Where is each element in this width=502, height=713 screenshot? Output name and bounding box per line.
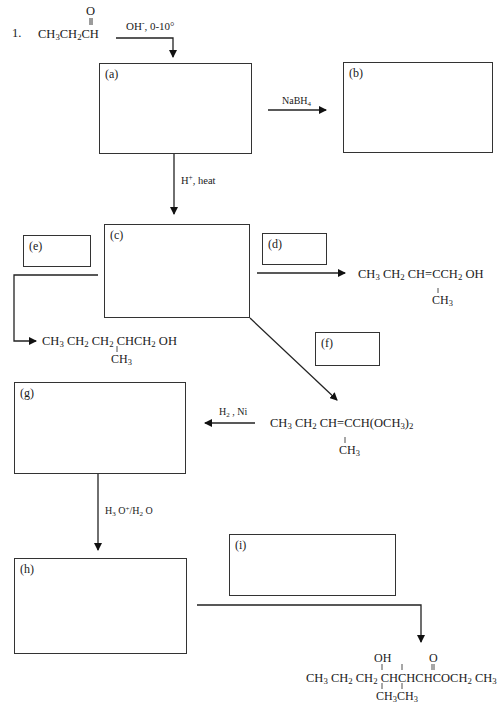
answer-box-i[interactable]: (i) (229, 534, 396, 596)
product-unsaturated-alcohol-methyl: CH3 (432, 294, 453, 306)
reagent-acid-heat: H+, heat (181, 175, 216, 186)
final-ester: CH3 CH2 CH2 CHCHCHCOCH2 CH3 (306, 671, 497, 685)
product-saturated-alcohol: CH3 CH2 CH2 CHCH2 OH (42, 334, 177, 348)
answer-box-g[interactable]: (g) (14, 382, 186, 474)
acetal-methyl: CH3 (339, 444, 360, 456)
reagent-h2-ni: H2 , Ni (219, 406, 247, 417)
final-ester-hydroxyl: OH (374, 652, 391, 664)
final-ester-methyl-1: CH3 (376, 690, 397, 702)
box-label-f: (f) (321, 336, 333, 351)
final-ester-carbonyl-oxygen: O (429, 652, 438, 664)
box-label-d: (d) (268, 237, 282, 252)
product-saturated-alcohol-methyl: CH3 (111, 353, 132, 365)
product-unsaturated-alcohol: CH3 CH2 CH=CCH2 OH (358, 267, 483, 281)
answer-box-e[interactable]: (e) (23, 235, 91, 267)
box-label-e: (e) (29, 239, 42, 254)
box-label-g: (g) (20, 386, 34, 401)
answer-box-h[interactable]: (h) (14, 558, 187, 654)
box-label-b: (b) (349, 66, 363, 81)
box-label-i: (i) (235, 538, 246, 553)
box-label-c: (c) (110, 228, 123, 243)
carbonyl-oxygen: O (86, 4, 95, 19)
condition-base-cold: OH-, 0-10° (126, 20, 175, 32)
reagent-hydronium-water: H3 O+/H2 O (105, 505, 153, 516)
answer-box-d[interactable]: (d) (262, 233, 327, 265)
box-label-a: (a) (105, 67, 118, 82)
answer-box-f[interactable]: (f) (315, 332, 380, 366)
reagent-nabh4: NaBH4 (282, 95, 311, 106)
box-label-h: (h) (20, 562, 34, 577)
answer-box-a[interactable]: (a) (99, 63, 252, 154)
acetal-compound: CH3 CH2 CH=CCH(OCH3)2 (270, 416, 413, 430)
answer-box-b[interactable]: (b) (343, 62, 493, 153)
starting-material-propanal: CH3CH2CH (38, 27, 99, 41)
answer-box-c[interactable]: (c) (104, 224, 250, 318)
problem-number: 1. (12, 26, 21, 41)
final-ester-methyl-2: CH3 (397, 690, 418, 702)
